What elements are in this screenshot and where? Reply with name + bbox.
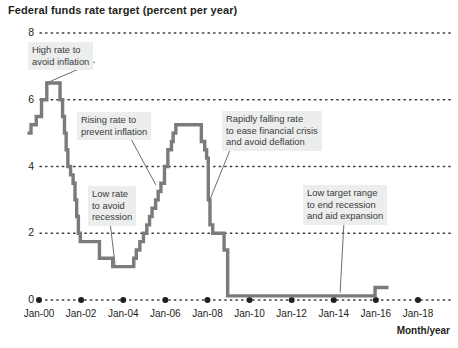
x-axis-tick-dot bbox=[204, 297, 210, 303]
annotation-high-rate: High rate to avoid inflation bbox=[28, 42, 93, 70]
x-axis-tick-dot bbox=[373, 297, 379, 303]
chart-figure: Federal funds rate target (percent per y… bbox=[0, 0, 458, 348]
annotation-leader-lines bbox=[46, 62, 344, 293]
x-axis-tick-dot bbox=[415, 297, 421, 303]
y-axis-label: 8 bbox=[20, 26, 34, 38]
y-axis-label: 6 bbox=[20, 93, 34, 105]
x-axis-caption: Month/year bbox=[397, 325, 450, 336]
x-axis-tick-dot bbox=[78, 297, 84, 303]
annotation-leader-line bbox=[131, 139, 156, 185]
x-axis-tick-dot bbox=[36, 297, 42, 303]
y-axis-label: 2 bbox=[20, 226, 34, 238]
annotation-low-target-range: Low target range to end recession and ai… bbox=[303, 185, 387, 225]
x-axis-tick-dot bbox=[289, 297, 295, 303]
annotation-rapidly-falling-rate: Rapidly falling rate to ease financial c… bbox=[222, 111, 322, 151]
annotation-low-rate: Low rate to avoid recession bbox=[88, 186, 136, 226]
annotation-leader-line bbox=[340, 222, 344, 293]
annotation-leader-line bbox=[209, 145, 232, 202]
y-axis-label: 0 bbox=[20, 293, 34, 305]
annotation-rising-rate: Rising rate to prevent inflation bbox=[77, 112, 151, 140]
x-axis-tick-dot bbox=[331, 297, 337, 303]
x-axis-label: Jan-18 bbox=[391, 308, 445, 319]
y-axis-label: 4 bbox=[20, 160, 34, 172]
x-axis-tick-dot bbox=[247, 297, 253, 303]
x-axis-tick-dot bbox=[162, 297, 168, 303]
x-axis-tick-dot bbox=[120, 297, 126, 303]
x-axis-tick-marks bbox=[36, 297, 421, 303]
